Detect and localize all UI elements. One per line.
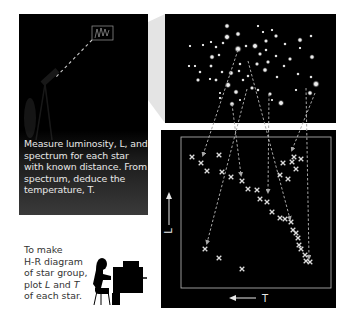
star-marker: [296, 236, 301, 241]
star-marker: [255, 188, 260, 193]
star-marker: [190, 155, 195, 160]
star-marker: [304, 259, 309, 264]
star-marker: [283, 217, 288, 222]
star-marker: [265, 200, 270, 205]
star-cluster: [187, 23, 320, 107]
telescope-target-box: [92, 26, 113, 40]
star-marker: [217, 153, 222, 158]
star-marker: [203, 247, 208, 252]
zoom-connector-wedge: [148, 14, 165, 123]
star-marker: [217, 256, 222, 261]
telescope-icon: [24, 68, 59, 140]
star-marker: [281, 161, 286, 166]
temperature-axis-label: T: [261, 293, 269, 304]
star-marker: [270, 210, 275, 215]
star-marker: [229, 175, 234, 180]
diagram-overlay: L T: [0, 0, 352, 324]
telescope-sightline: [55, 40, 92, 78]
star-marker: [278, 216, 283, 221]
star-marker: [303, 253, 308, 258]
star-marker: [220, 170, 225, 175]
star-marker: [290, 160, 295, 165]
hr-data-markers: [190, 153, 313, 272]
star-marker: [246, 187, 251, 192]
star-marker: [199, 161, 204, 166]
luminosity-axis-arrow: [166, 192, 172, 225]
star-marker: [294, 231, 299, 236]
star-marker: [240, 179, 245, 184]
luminosity-axis-label: L: [163, 228, 174, 234]
star-marker: [289, 220, 294, 225]
star-marker: [308, 260, 313, 265]
temperature-axis-arrow: [229, 295, 256, 301]
star-marker: [240, 267, 245, 272]
star-marker: [299, 157, 304, 162]
hr-plot-frame: [181, 137, 331, 288]
person-at-computer-icon: [93, 258, 147, 305]
star-marker: [286, 177, 291, 182]
star-marker: [294, 167, 299, 172]
star-marker: [258, 197, 263, 202]
star-marker: [205, 169, 210, 174]
star-marker: [292, 155, 297, 160]
